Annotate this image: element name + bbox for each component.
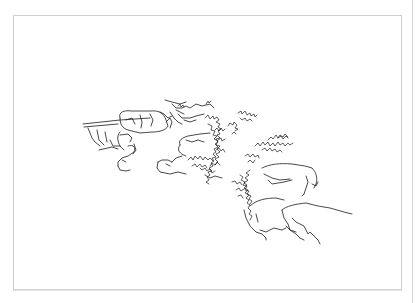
rock-sketch-drawing [0,0,415,303]
right-rock-group [232,134,352,244]
top-middle-rocks [165,100,214,124]
